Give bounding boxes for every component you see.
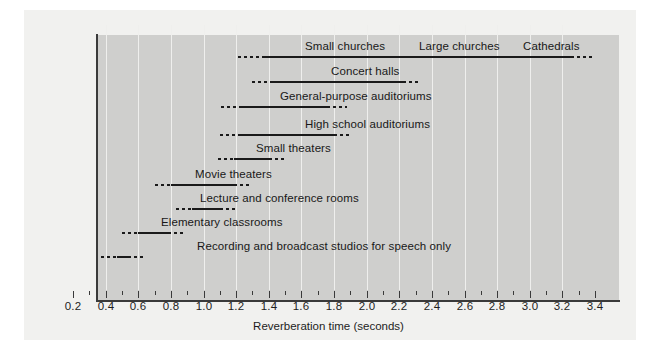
- range-bar-lower-tolerance: [155, 184, 171, 186]
- x-tick-major: [204, 291, 205, 298]
- bar-label: Small theaters: [256, 142, 331, 154]
- range-bar: [0, 255, 657, 259]
- bar-label: General-purpose auditoriums: [280, 90, 432, 102]
- range-bar: [0, 80, 657, 84]
- reverberation-time-chart: 0.20.40.60.81.01.21.41.61.82.02.22.42.62…: [0, 0, 657, 349]
- x-tick-major: [269, 291, 270, 298]
- x-tick-minor: [318, 291, 319, 295]
- x-tick-major: [138, 291, 139, 298]
- bar-label: Cathedrals: [523, 40, 580, 52]
- x-tick-major: [171, 291, 172, 298]
- series-row: Movie theaters: [0, 168, 657, 194]
- series-row: Lecture and conference rooms: [0, 192, 657, 218]
- range-bar-upper-tolerance: [168, 232, 186, 234]
- x-tick-major: [530, 291, 531, 298]
- x-tick-major: [497, 291, 498, 298]
- x-tick-minor: [383, 291, 384, 295]
- range-bar-typical: [117, 256, 128, 258]
- x-tick-major: [301, 291, 302, 298]
- x-tick-major: [399, 291, 400, 298]
- x-tick-label: 3.4: [575, 300, 615, 312]
- range-bar: [0, 231, 657, 235]
- range-bar-upper-tolerance: [234, 184, 252, 186]
- range-bar-typical: [270, 81, 402, 83]
- x-tick-major: [432, 291, 433, 298]
- range-bar-typical: [171, 184, 235, 186]
- range-bar-lower-tolerance: [220, 134, 238, 136]
- series-row: Elementary classrooms: [0, 216, 657, 242]
- bar-label: High school auditoriums: [305, 118, 430, 130]
- series-row: Small theaters: [0, 142, 657, 168]
- x-axis-title: Reverberation time (seconds): [0, 320, 657, 332]
- range-bar-typical: [262, 56, 570, 58]
- range-bar-lower-tolerance: [221, 106, 239, 108]
- series-row: General-purpose auditoriums: [0, 90, 657, 116]
- range-bar-upper-tolerance: [128, 256, 143, 258]
- range-bar-upper-tolerance: [220, 208, 238, 210]
- x-tick-minor: [546, 291, 547, 295]
- x-tick-major: [367, 291, 368, 298]
- range-bar-upper-tolerance: [571, 56, 595, 58]
- x-tick-minor: [187, 291, 188, 295]
- range-bar: [0, 183, 657, 187]
- x-tick-minor: [350, 291, 351, 295]
- range-bar: [0, 133, 657, 137]
- range-bar-typical: [238, 134, 334, 136]
- x-tick-minor: [285, 291, 286, 295]
- range-bar-typical: [239, 106, 327, 108]
- x-tick-minor: [122, 291, 123, 295]
- range-bar-upper-tolerance: [269, 158, 285, 160]
- x-tick-minor: [252, 291, 253, 295]
- x-tick-minor: [481, 291, 482, 295]
- x-tick-minor: [220, 291, 221, 295]
- x-tick-major: [73, 291, 74, 298]
- range-bar-lower-tolerance: [252, 81, 270, 83]
- range-bar: [0, 157, 657, 161]
- range-bar: [0, 207, 657, 211]
- range-bar: [0, 55, 657, 59]
- range-bar-lower-tolerance: [122, 232, 138, 234]
- range-bar-upper-tolerance: [403, 81, 421, 83]
- bar-label: Small churches: [305, 40, 385, 52]
- x-tick-major: [106, 291, 107, 298]
- x-tick-minor: [155, 291, 156, 295]
- x-tick-major: [334, 291, 335, 298]
- x-tick-major: [595, 291, 596, 298]
- range-bar-upper-tolerance: [334, 134, 350, 136]
- range-bar-upper-tolerance: [327, 106, 347, 108]
- series-row: Concert halls: [0, 65, 657, 91]
- bar-label: Large churches: [419, 40, 500, 52]
- series-row: Small churchesLarge churchesCathedrals: [0, 40, 657, 66]
- range-bar-typical: [138, 232, 167, 234]
- series-row: High school auditoriums: [0, 118, 657, 144]
- x-tick-major: [562, 291, 563, 298]
- x-tick-major: [465, 291, 466, 298]
- bar-label: Elementary classrooms: [161, 216, 283, 228]
- x-tick-major: [236, 291, 237, 298]
- range-bar-typical: [234, 158, 268, 160]
- x-tick-minor: [416, 291, 417, 295]
- bar-label: Concert halls: [331, 65, 399, 77]
- range-bar-lower-tolerance: [101, 256, 117, 258]
- range-bar: [0, 105, 657, 109]
- bar-label: Movie theaters: [195, 168, 272, 180]
- x-tick-minor: [448, 291, 449, 295]
- x-tick-minor: [513, 291, 514, 295]
- range-bar-typical: [192, 208, 220, 210]
- x-tick-minor: [579, 291, 580, 295]
- series-row: Recording and broadcast studios for spee…: [0, 240, 657, 266]
- x-tick-minor: [89, 291, 90, 295]
- range-bar-lower-tolerance: [238, 56, 262, 58]
- range-bar-lower-tolerance: [176, 208, 192, 210]
- bar-label: Lecture and conference rooms: [200, 192, 359, 204]
- bar-label: Recording and broadcast studios for spee…: [197, 240, 451, 252]
- range-bar-lower-tolerance: [218, 158, 234, 160]
